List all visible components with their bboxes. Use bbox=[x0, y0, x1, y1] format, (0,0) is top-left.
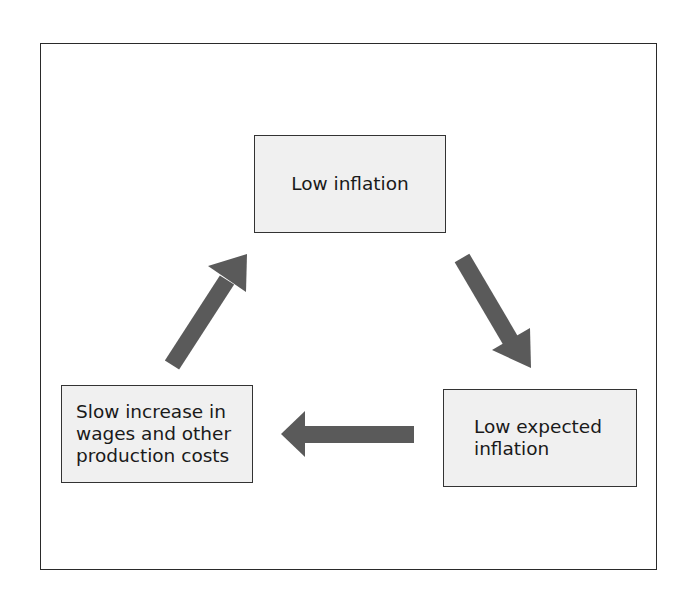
arrows-layer bbox=[0, 0, 694, 611]
arrow-left-icon bbox=[281, 411, 414, 457]
arrow-down-right-icon bbox=[462, 258, 531, 368]
arrow-up-right-icon bbox=[172, 254, 247, 365]
